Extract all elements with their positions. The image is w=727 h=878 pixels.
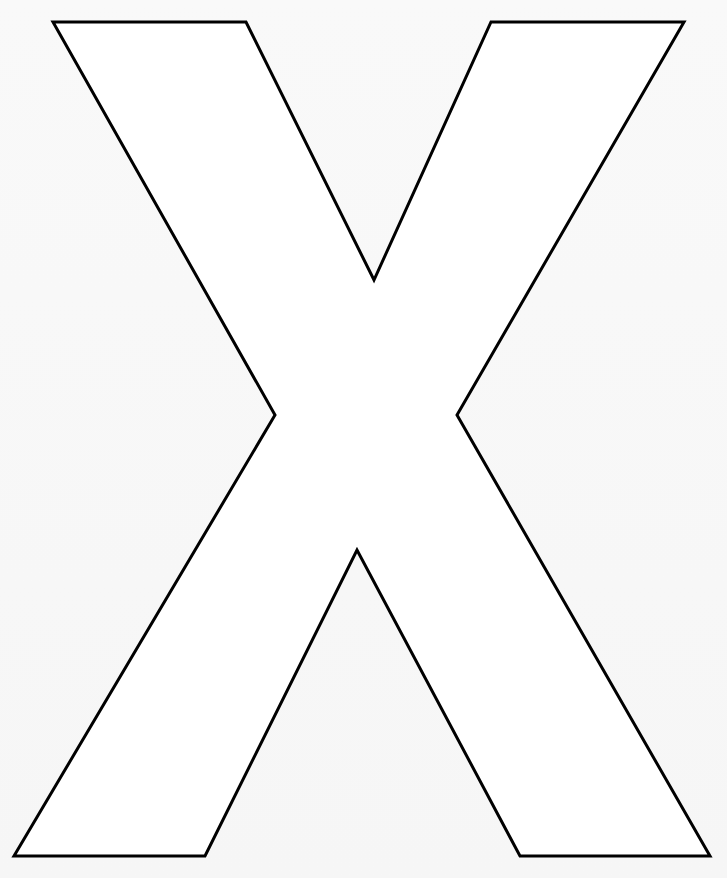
- coloring-page: X: [0, 0, 727, 878]
- letter-x-shape: [14, 22, 710, 856]
- letter-x-outline-icon: [0, 0, 727, 878]
